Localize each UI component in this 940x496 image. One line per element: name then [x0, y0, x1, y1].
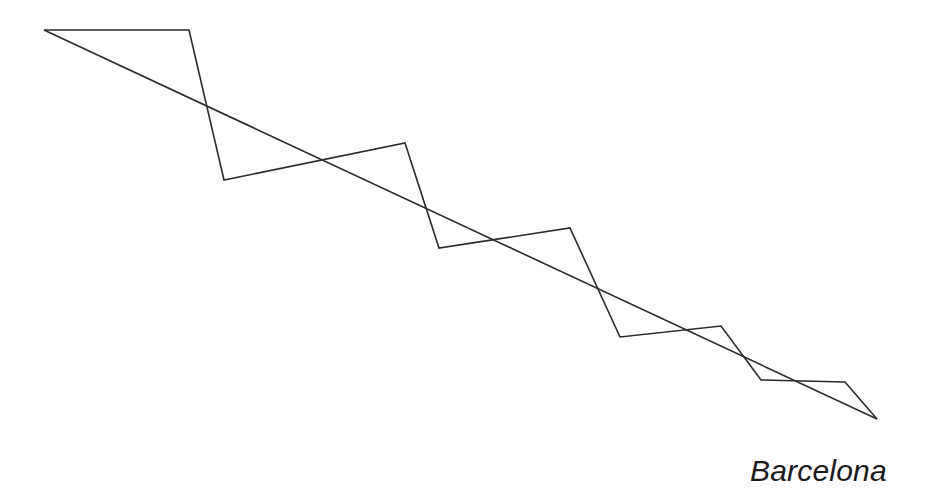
diagonal-line — [44, 30, 877, 419]
zigzag-diagram — [0, 0, 940, 496]
caption-label: Barcelona — [750, 456, 887, 486]
